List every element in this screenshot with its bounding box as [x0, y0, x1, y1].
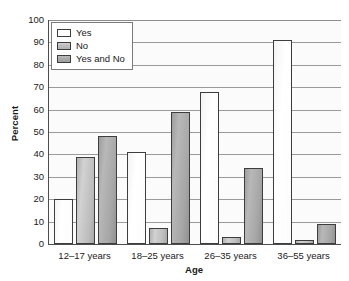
bar: [273, 40, 292, 244]
x-axis-tick-label: 36–55 years: [267, 250, 340, 261]
x-axis-tick-label: 18–25 years: [121, 250, 194, 261]
y-axis-tick-label: 0: [39, 239, 44, 249]
bar: [76, 157, 95, 244]
legend-item: Yes: [57, 27, 125, 39]
y-axis-tick-label: 20: [33, 194, 44, 204]
x-axis-tick-labels: 12–17 years18–25 years26–35 years36–55 y…: [48, 250, 340, 264]
y-axis-tick-label: 50: [33, 127, 44, 137]
bar-group: [195, 20, 268, 244]
bar-group: [122, 20, 195, 244]
legend-swatch-yes: [57, 29, 71, 37]
y-axis-tick-label: 100: [28, 15, 44, 25]
y-axis-tick-label: 10: [33, 217, 44, 227]
bar-chart-figure: Percent 1009080706050403020100 YesNoYes …: [0, 0, 349, 281]
y-axis-tick-label: 70: [33, 82, 44, 92]
legend-item-label: No: [76, 41, 88, 51]
legend-item: No: [57, 40, 125, 52]
bar: [200, 92, 219, 244]
bar: [222, 237, 241, 244]
x-axis-title: Age: [48, 264, 340, 275]
bar: [171, 112, 190, 244]
legend-swatch-no: [57, 42, 71, 50]
y-axis-tick-label: 30: [33, 172, 44, 182]
legend-swatch-yes-and-no: [57, 55, 71, 63]
bar-group: [268, 20, 341, 244]
bar: [295, 240, 314, 244]
y-axis-tick-label: 90: [33, 37, 44, 47]
legend-item: Yes and No: [57, 53, 125, 65]
bar: [127, 152, 146, 244]
bar: [244, 168, 263, 244]
bar: [54, 199, 73, 244]
y-axis-tick-label: 40: [33, 149, 44, 159]
legend-item-label: Yes: [76, 28, 92, 38]
bar: [98, 136, 117, 244]
legend-item-label: Yes and No: [76, 54, 125, 64]
x-axis-tick-label: 26–35 years: [194, 250, 267, 261]
bar: [317, 224, 336, 244]
y-axis-tick-label: 60: [33, 105, 44, 115]
y-axis-tick-labels: 1009080706050403020100: [18, 0, 44, 281]
y-axis-tick-label: 80: [33, 60, 44, 70]
bar: [149, 228, 168, 244]
x-axis-tick-label: 12–17 years: [48, 250, 121, 261]
chart-legend: YesNoYes and No: [51, 22, 133, 70]
